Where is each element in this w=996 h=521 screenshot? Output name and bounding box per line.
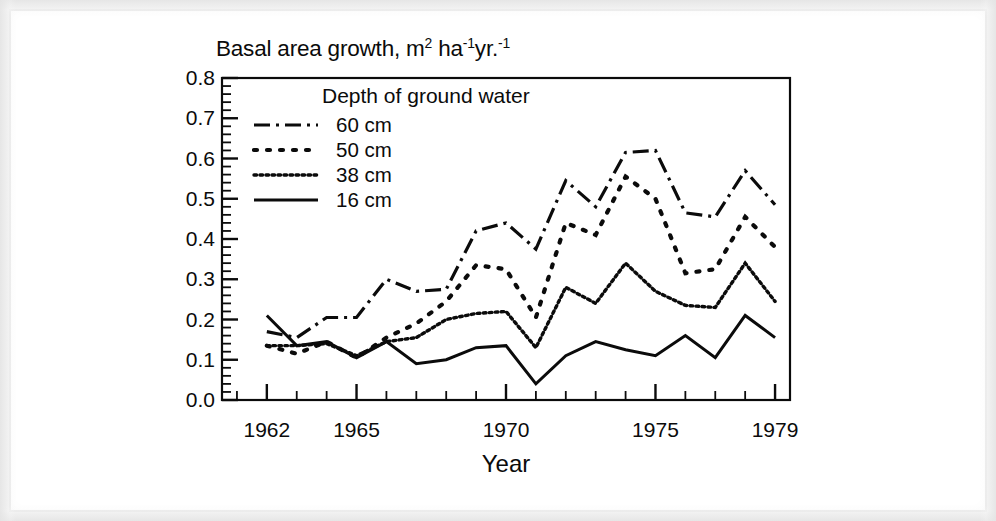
y-tick-label: 0.6 [186, 147, 215, 171]
legend-swatch-16-cm [252, 193, 320, 207]
x-tick-label: 1962 [243, 418, 290, 442]
legend-entry: 60 cm [252, 112, 392, 137]
y-tick-label: 0.4 [186, 227, 215, 251]
legend-label: 16 cm [336, 188, 392, 212]
chart-figure: Basal area growth, m2 ha-1yr.-1 0.00.10.… [0, 0, 996, 521]
legend-swatch-60-cm [252, 118, 320, 132]
x-tick-label: 1979 [752, 418, 799, 442]
y-tick-label: 0.0 [186, 388, 215, 412]
chart-title-sup-ha: -1 [463, 35, 475, 51]
chart-title-sup-yr: -1 [498, 35, 510, 51]
x-tick-label: 1975 [632, 418, 679, 442]
chart-title-main: Basal area growth, m [216, 36, 425, 61]
legend-entry: 16 cm [252, 187, 392, 212]
y-tick-label: 0.7 [186, 106, 215, 130]
y-axis-tick-labels: 0.00.10.20.30.40.50.60.70.8 [0, 0, 215, 521]
y-tick-label: 0.5 [186, 187, 215, 211]
legend-title: Depth of ground water [322, 84, 530, 108]
legend-label: 60 cm [336, 113, 392, 137]
x-tick-label: 1965 [333, 418, 380, 442]
y-tick-label: 0.3 [186, 267, 215, 291]
y-tick-label: 0.8 [186, 66, 215, 90]
x-axis-title-text: Year [482, 450, 531, 477]
legend-swatch-38-cm [252, 168, 320, 182]
legend-entries: 60 cm50 cm38 cm16 cm [252, 112, 392, 212]
y-tick-label: 0.2 [186, 308, 215, 332]
chart-title-mid2: yr. [475, 36, 498, 61]
series-line-38-cm [267, 263, 775, 356]
x-tick-label: 1970 [483, 418, 530, 442]
chart-title: Basal area growth, m2 ha-1yr.-1 [216, 36, 510, 62]
legend-label: 50 cm [336, 138, 392, 162]
series-line-16-cm [267, 315, 775, 383]
legend-swatch-50-cm [252, 143, 320, 157]
scanned-page: Basal area growth, m2 ha-1yr.-1 0.00.10.… [0, 0, 996, 521]
chart-title-mid: ha [432, 36, 463, 61]
legend-label: 38 cm [336, 163, 392, 187]
legend-entry: 50 cm [252, 137, 392, 162]
legend-entry: 38 cm [252, 162, 392, 187]
x-axis-title: Year [0, 450, 996, 478]
y-tick-label: 0.1 [186, 348, 215, 372]
